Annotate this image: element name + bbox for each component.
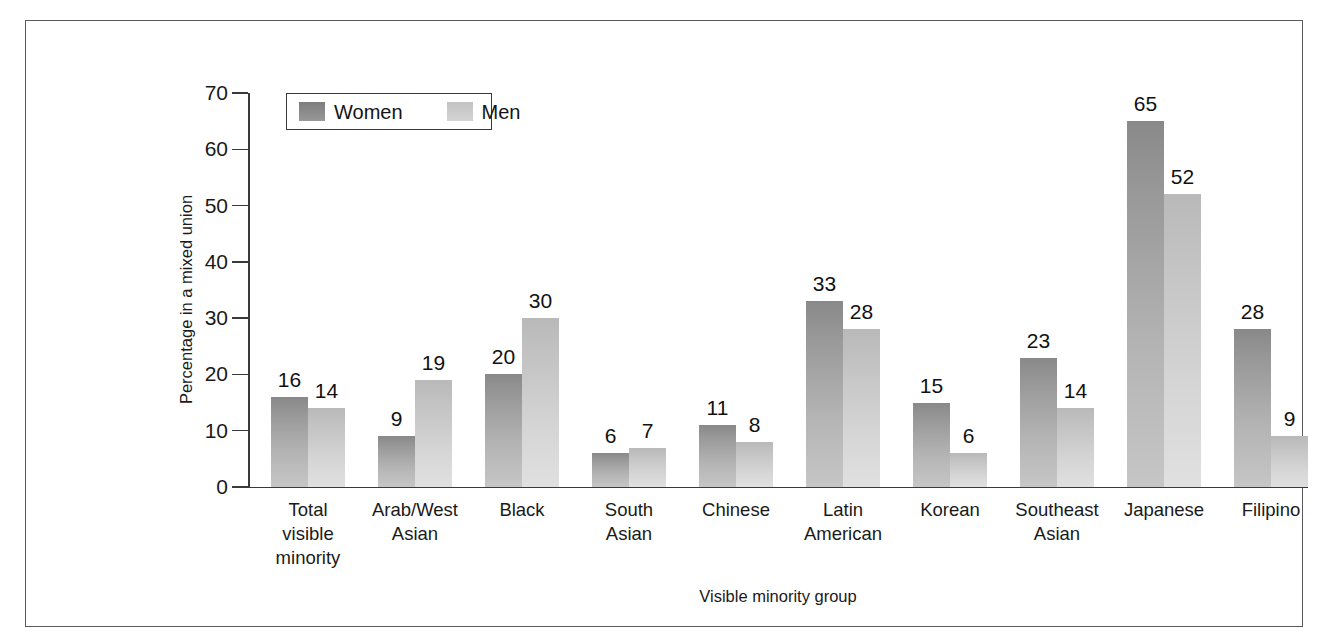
- x-axis-category-label-line: Asian: [355, 522, 475, 546]
- x-axis-category-label-line: Total: [248, 498, 368, 522]
- bar-value-label: 20: [473, 346, 534, 367]
- bar-men: [843, 329, 880, 487]
- bar-value-label: 6: [938, 425, 999, 446]
- y-axis-tick-label: 20: [182, 363, 228, 384]
- bar-men: [629, 448, 666, 487]
- x-axis-category-label-line: Japanese: [1104, 498, 1224, 522]
- bar-men: [736, 442, 773, 487]
- x-axis-title: Visible minority group: [248, 587, 1308, 606]
- bar-value-label: 30: [510, 290, 571, 311]
- y-axis-tick: [232, 149, 248, 150]
- y-axis-tick-label: 60: [182, 138, 228, 159]
- bar-men: [415, 380, 452, 487]
- x-axis-category-label: Japanese: [1104, 498, 1224, 522]
- y-axis-tick: [232, 317, 248, 318]
- x-axis-category-label: SoutheastAsian: [997, 498, 1117, 546]
- legend-label-women: Women: [334, 102, 403, 122]
- x-axis-category-label-line: Asian: [997, 522, 1117, 546]
- legend-swatch-women: [299, 102, 325, 121]
- y-axis-tick-label: 0: [182, 476, 228, 497]
- x-axis-category-label: Arab/WestAsian: [355, 498, 475, 546]
- x-axis-category-label: LatinAmerican: [783, 498, 903, 546]
- bar-value-label: 23: [1008, 330, 1069, 351]
- bar-men: [1271, 436, 1308, 487]
- x-axis-category-label-line: Arab/West: [355, 498, 475, 522]
- y-axis-tick-label: 50: [182, 195, 228, 216]
- x-axis-category-label-line: South: [569, 498, 689, 522]
- x-axis-category-label-line: Latin: [783, 498, 903, 522]
- y-axis-tick: [232, 92, 248, 93]
- y-axis-tick-labels: 010203040506070: [166, 21, 228, 642]
- bar-value-label: 33: [794, 273, 855, 294]
- x-axis-category-label: Chinese: [676, 498, 796, 522]
- x-axis-category-label: Totalvisibleminority: [248, 498, 368, 570]
- bar-men: [1057, 408, 1094, 487]
- bar-value-label: 7: [617, 420, 678, 441]
- y-axis-tick: [232, 374, 248, 375]
- bar-men: [308, 408, 345, 487]
- bar-value-label: 8: [724, 414, 785, 435]
- x-axis-category-label-line: American: [783, 522, 903, 546]
- x-axis-category-label: Black: [462, 498, 582, 522]
- y-axis-tick: [232, 486, 248, 487]
- figure-frame: Percentage in a mixed union 010203040506…: [25, 20, 1303, 627]
- x-axis-category-label-line: Asian: [569, 522, 689, 546]
- x-axis-category-label-line: Filipino: [1211, 498, 1324, 522]
- bar-men: [522, 318, 559, 487]
- bar-value-label: 65: [1115, 93, 1176, 114]
- x-axis-category-label: SouthAsian: [569, 498, 689, 546]
- bar-value-label: 28: [1222, 301, 1283, 322]
- chart-legend: Women Men: [286, 93, 492, 130]
- x-axis-category-label-line: Southeast: [997, 498, 1117, 522]
- bar-women: [1020, 358, 1057, 487]
- bar-women: [378, 436, 415, 487]
- bar-value-label: 14: [1045, 380, 1106, 401]
- y-axis-tick: [232, 205, 248, 206]
- y-axis-tick-label: 10: [182, 420, 228, 441]
- bar-men: [950, 453, 987, 487]
- bar-women: [271, 397, 308, 487]
- bar-value-label: 52: [1152, 166, 1213, 187]
- bar-value-label: 9: [366, 408, 427, 429]
- y-axis-tick-label: 70: [182, 82, 228, 103]
- bar-value-label: 9: [1259, 408, 1320, 429]
- bar-value-label: 19: [403, 352, 464, 373]
- bar-value-label: 28: [831, 301, 892, 322]
- x-axis-category-label: Korean: [890, 498, 1010, 522]
- bar-value-label: 14: [296, 380, 357, 401]
- x-axis-category-label-line: Chinese: [676, 498, 796, 522]
- x-axis-category-label: Filipino: [1211, 498, 1324, 522]
- legend-swatch-men: [447, 102, 473, 121]
- bar-men: [1164, 194, 1201, 487]
- x-axis-category-label-line: Korean: [890, 498, 1010, 522]
- y-axis-tick-label: 40: [182, 251, 228, 272]
- x-axis-category-label-line: visible: [248, 522, 368, 546]
- legend-label-men: Men: [482, 102, 521, 122]
- y-axis-tick: [232, 261, 248, 262]
- y-axis-tick: [232, 430, 248, 431]
- bar-value-label: 15: [901, 375, 962, 396]
- x-axis-category-label-line: Black: [462, 498, 582, 522]
- bar-women: [485, 374, 522, 487]
- bar-women: [592, 453, 629, 487]
- bar-women: [806, 301, 843, 487]
- y-axis-tick-label: 30: [182, 307, 228, 328]
- x-axis-category-label-line: minority: [248, 546, 368, 570]
